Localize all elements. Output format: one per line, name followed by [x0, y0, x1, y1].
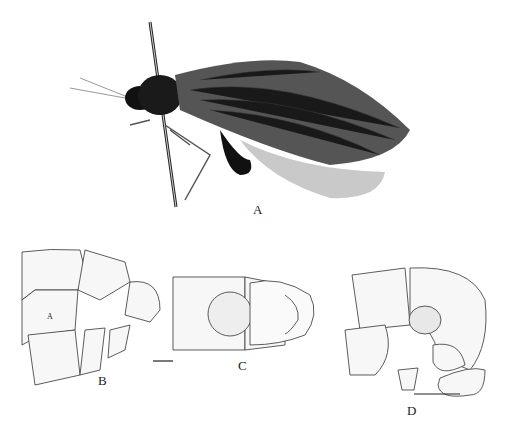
figure: A A B C D [0, 0, 507, 433]
panel-label-a: A [253, 202, 262, 218]
panel-label-b: B [98, 373, 107, 389]
panel-label-d: D [407, 403, 416, 419]
panel-b-inner-label: A [47, 312, 53, 321]
panel-a-photo [70, 22, 410, 207]
panel-c-drawing [173, 277, 314, 350]
panel-b-drawing [22, 249, 160, 385]
panel-label-c: C [238, 358, 247, 374]
panel-d-drawing [345, 268, 486, 396]
